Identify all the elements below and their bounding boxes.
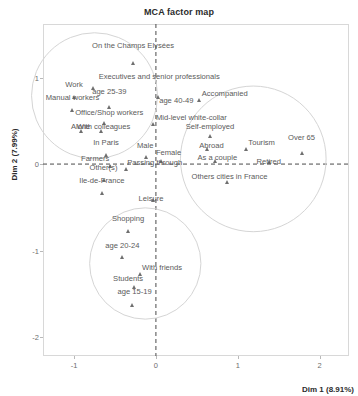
y-tick-mark <box>40 251 43 252</box>
y-tick-label: -2 <box>27 332 39 341</box>
data-point-label: Female <box>156 149 181 157</box>
data-point-label: Ile-de-France <box>79 177 124 185</box>
data-point-label: Other(s) <box>90 164 118 172</box>
data-point-marker[interactable] <box>244 147 248 151</box>
data-point-label: Male <box>137 142 153 150</box>
data-point-label: age 15-19 <box>118 288 152 296</box>
data-point-marker[interactable] <box>208 134 212 138</box>
x-tick-mark <box>238 356 239 359</box>
data-point-marker[interactable] <box>300 151 304 155</box>
y-tick-mark <box>40 78 43 79</box>
data-point-label: With colleagues <box>77 123 131 131</box>
data-point-label: age 25-39 <box>92 88 126 96</box>
data-point-label: In Paris <box>93 139 119 147</box>
y-tick-mark <box>40 337 43 338</box>
data-point-marker[interactable] <box>70 108 74 112</box>
data-point-marker[interactable] <box>130 303 134 307</box>
x-tick-mark <box>320 356 321 359</box>
data-point-marker[interactable] <box>151 122 155 126</box>
y-tick-label: 0 <box>27 160 39 169</box>
x-tick-label: 2 <box>317 361 321 370</box>
y-tick-label: 1 <box>27 73 39 82</box>
x-tick-mark <box>156 356 157 359</box>
data-point-label: With friends <box>142 264 182 272</box>
data-point-label: Work <box>65 81 83 89</box>
x-tick-label: -1 <box>71 361 78 370</box>
y-axis-label: Dim 2 (7.99%) <box>10 95 19 215</box>
data-point-marker[interactable] <box>124 167 128 171</box>
data-point-marker[interactable] <box>120 255 124 259</box>
data-point-label: Abroad <box>199 142 224 150</box>
page-title: MCA factor map <box>0 7 358 17</box>
data-point-label: Farmers <box>81 155 109 163</box>
x-tick-label: 0 <box>154 361 158 370</box>
data-point-label: Accompanied <box>202 90 248 98</box>
data-point-label: Others cities in France <box>192 173 268 181</box>
data-point-label: Self-employed <box>186 123 235 131</box>
data-point-label: Passing through <box>127 159 182 167</box>
data-point-label: Tourism <box>248 139 275 147</box>
data-point-marker[interactable] <box>197 98 201 102</box>
y-tick-label: -1 <box>27 246 39 255</box>
data-point-label: Shopping <box>112 215 144 223</box>
x-axis-label: Dim 1 (8.91%) <box>302 385 354 394</box>
data-point-label: Retired <box>257 158 281 166</box>
data-point-label: On the Champs Elysées <box>92 42 174 50</box>
mca-factor-map: MCA factor map Dim 2 (7.99%) Dim 1 (8.91… <box>0 0 358 396</box>
x-tick-label: 1 <box>236 361 240 370</box>
data-point-label: age 40-49 <box>159 97 193 105</box>
data-point-label: Leisure <box>139 195 164 203</box>
data-point-label: Over 65 <box>288 134 315 142</box>
data-point-marker[interactable] <box>126 229 130 233</box>
x-tick-mark <box>74 356 75 359</box>
data-point-label: Students <box>113 275 143 283</box>
data-point-label: Office/Shop workers <box>75 109 143 117</box>
data-point-label: Mid-level white-collar <box>156 114 227 122</box>
data-point-label: age 20-24 <box>105 242 139 250</box>
y-tick-mark <box>40 164 43 165</box>
data-point-label: Executives and senior professionals <box>99 73 220 81</box>
data-point-marker[interactable] <box>131 61 135 65</box>
data-point-label: As a couple <box>197 154 237 162</box>
data-point-marker[interactable] <box>100 191 104 195</box>
